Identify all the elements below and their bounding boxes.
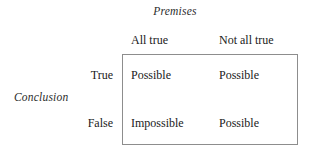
column-header-all-true: All true bbox=[131, 33, 168, 48]
column-axis-label: Premises bbox=[0, 5, 314, 17]
row-header-false: False bbox=[47, 116, 113, 131]
row-header-true: True bbox=[47, 68, 113, 83]
cell-false-all-true: Impossible bbox=[131, 116, 184, 131]
cell-false-not-all-true: Possible bbox=[219, 116, 259, 131]
column-header-not-all-true: Not all true bbox=[219, 33, 274, 48]
truth-table-diagram: Premises All true Not all true Conclusio… bbox=[0, 0, 314, 154]
row-axis-label: Conclusion bbox=[14, 91, 68, 103]
cell-true-not-all-true: Possible bbox=[219, 68, 259, 83]
cell-true-all-true: Possible bbox=[131, 68, 171, 83]
